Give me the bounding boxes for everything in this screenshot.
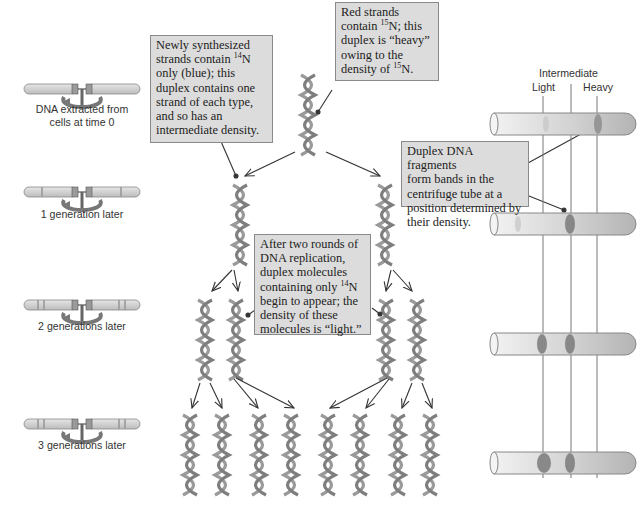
callout-line: strand of each type, — [156, 95, 268, 109]
callout-line: DNA replication, — [260, 251, 366, 265]
callout-line: form bands in the — [407, 172, 524, 186]
callout-line: density of 15N. — [341, 62, 434, 76]
gen0-label-line2: cells at time 0 — [22, 116, 142, 129]
gen3-label: 3 generations later — [22, 439, 142, 452]
tube-gen2 — [490, 333, 636, 355]
callout-line: duplex molecules — [260, 265, 366, 279]
callout-line: containing only 14N — [260, 280, 366, 294]
light-density-label: Light — [532, 81, 555, 93]
callout-line: duplex is “heavy” — [341, 33, 434, 47]
helix-gen1-left — [233, 185, 247, 265]
density-lines — [543, 84, 597, 478]
callout-line: and so has an — [156, 109, 268, 123]
callout-line: Red strands — [341, 5, 434, 19]
helix-gen1-right — [378, 185, 392, 265]
gen2-label: 2 generations later — [22, 320, 142, 333]
callout-line: their density. — [407, 215, 524, 229]
callout-line: contain 15N; this — [341, 19, 434, 33]
callout-line: Newly synthesized — [156, 38, 268, 52]
callout-line: intermediate density. — [156, 123, 268, 137]
tube-gen0 — [490, 113, 636, 135]
gen1-label: 1 generation later — [22, 208, 142, 221]
callout-line: molecules is “light.” — [260, 322, 366, 336]
helix-gen0 — [301, 75, 315, 155]
intermediate-density-label: Intermediate — [539, 67, 598, 79]
callout-line: duplex contains one — [156, 81, 268, 95]
callout-line: owing to the — [341, 48, 434, 62]
meselson-stahl-diagram: DNA extracted from cells at time 0 1 gen… — [0, 0, 639, 507]
tube-gen3 — [490, 452, 636, 474]
callout-line: only (blue); this — [156, 66, 268, 80]
callout-line: centrifuge tube at a — [407, 187, 524, 201]
callout-line: strands contain 14N — [156, 52, 268, 66]
heavy-density-label: Heavy — [583, 81, 613, 93]
callout-line: Duplex DNA fragments — [407, 144, 524, 172]
callout-light: After two rounds of DNA replication, dup… — [254, 234, 371, 335]
callout-line: position determined by — [407, 201, 524, 215]
callout-line: begin to appear; the — [260, 294, 366, 308]
callout-intermediate: Newly synthesized strands contain 14N on… — [150, 35, 273, 143]
gen0-label-line1: DNA extracted from — [22, 103, 142, 116]
callout-line: After two rounds of — [260, 237, 366, 251]
callout-bands: Duplex DNA fragments form bands in the c… — [401, 141, 529, 207]
helix-gen3 — [183, 415, 437, 495]
callout-line: density of these — [260, 308, 366, 322]
callout-heavy: Red strands contain 15N; this duplex is … — [335, 2, 439, 81]
gen0-label: DNA extracted from cells at time 0 — [22, 103, 142, 128]
